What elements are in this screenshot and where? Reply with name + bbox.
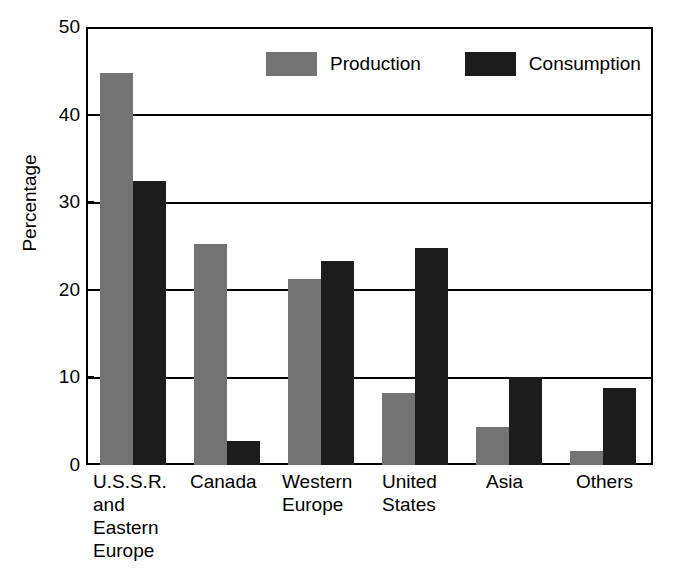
production-swatch-icon xyxy=(266,52,317,76)
x-axis-category-labels: U.S.S.R. and Eastern Europe Canada Weste… xyxy=(86,470,653,575)
bar-consumption-united-states xyxy=(415,248,448,465)
bar-production-canada xyxy=(194,244,227,465)
bar-chart: Percentage 50 40 30 20 10 0 xyxy=(0,0,679,578)
y-tick-label-10: 10 xyxy=(36,366,80,388)
legend-item-production: Production xyxy=(266,52,421,76)
bar-consumption-others xyxy=(603,388,636,465)
bar-consumption-canada xyxy=(227,441,260,465)
bar-production-united-states xyxy=(382,393,415,465)
y-tick-label-0: 0 xyxy=(36,454,80,476)
legend-label-consumption: Consumption xyxy=(529,53,641,75)
chart-legend: Production Consumption xyxy=(266,52,641,76)
x-label-asia: Asia xyxy=(486,470,523,493)
x-label-canada: Canada xyxy=(190,470,257,493)
bar-production-others xyxy=(570,451,603,465)
y-tickmark-30 xyxy=(86,201,94,203)
y-tick-label-50: 50 xyxy=(36,16,80,38)
x-label-others: Others xyxy=(576,470,633,493)
bar-production-western-europe xyxy=(288,279,321,465)
legend-item-consumption: Consumption xyxy=(465,52,641,76)
bars-layer xyxy=(86,27,653,465)
y-tickmark-20 xyxy=(86,289,94,291)
y-axis-tick-labels: 50 40 30 20 10 0 xyxy=(30,27,80,465)
y-tick-label-20: 20 xyxy=(36,279,80,301)
x-label-ussr-and-eastern-europe: U.S.S.R. and Eastern Europe xyxy=(93,470,167,562)
y-tickmark-10 xyxy=(86,376,94,378)
x-label-western-europe: Western Europe xyxy=(282,470,352,516)
y-tick-label-30: 30 xyxy=(36,191,80,213)
consumption-swatch-icon xyxy=(465,52,516,76)
legend-label-production: Production xyxy=(330,53,421,75)
x-label-united-states: United States xyxy=(382,470,437,516)
bar-production-asia xyxy=(476,427,509,465)
bar-consumption-ussr-and-eastern-europe xyxy=(133,181,166,465)
bar-production-ussr-and-eastern-europe xyxy=(100,73,133,465)
y-tickmark-40 xyxy=(86,114,94,116)
bar-consumption-asia xyxy=(509,377,542,465)
bar-consumption-western-europe xyxy=(321,261,354,465)
y-tick-label-40: 40 xyxy=(36,104,80,126)
